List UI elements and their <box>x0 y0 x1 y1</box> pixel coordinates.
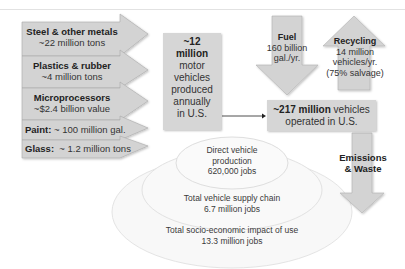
input-steel: Steel & other metals ~22 million tons <box>22 26 122 48</box>
input-steel-title: Steel & other metals <box>22 26 122 37</box>
input-plastics: Plastics & rubber ~4 million tons <box>22 60 122 82</box>
recycling-label: Recycling 14 million vehicles/yr. (75% s… <box>318 36 392 78</box>
input-paint: Paint: ~ 100 million gal. <box>22 124 135 135</box>
jobs-socio-economic-label: Total socio-economic impact of use 13.3 … <box>142 225 322 246</box>
input-plastics-title: Plastics & rubber <box>22 60 122 71</box>
fuel-label: Fuel 160 billion gal./yr. <box>258 32 316 64</box>
input-microprocessors-value: ~$2.4 billion value <box>22 103 122 114</box>
input-microprocessors-title: Microprocessors <box>22 92 122 103</box>
input-steel-value: ~22 million tons <box>22 37 122 48</box>
emissions-label: Emissions & Waste <box>334 152 392 174</box>
jobs-supply-chain-label: Total vehicle supply chain 6.7 million j… <box>162 193 302 214</box>
input-plastics-value: ~4 million tons <box>22 71 122 82</box>
production-box: ~12 million motor vehicles produced annu… <box>163 33 221 130</box>
fleet-box: ~217 million vehicles operated in U.S. <box>267 100 376 131</box>
input-microprocessors: Microprocessors ~$2.4 billion value <box>22 92 122 114</box>
jobs-direct-label: Direct vehicle production 620,000 jobs <box>182 145 282 177</box>
input-glass: Glass: ~ 1.2 million tons <box>22 143 135 154</box>
